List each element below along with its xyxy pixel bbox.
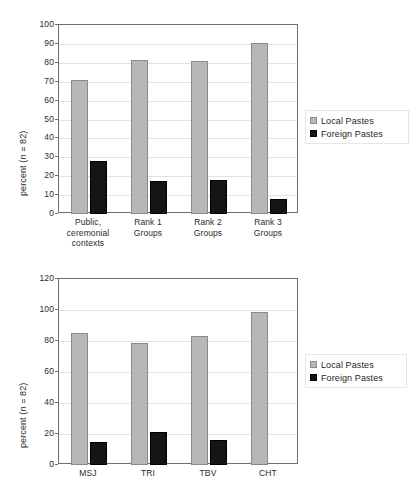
y-axis-tick-label: 80	[30, 57, 54, 67]
bar-foreign	[90, 161, 107, 214]
x-axis-label: Public,ceremonialcontexts	[58, 217, 118, 249]
bar-foreign	[90, 442, 107, 465]
legend-item: Local Pastes	[310, 114, 403, 127]
x-axis-label-line: Rank 2	[178, 217, 238, 228]
bar-local	[191, 61, 208, 214]
y-axis-tick-mark	[55, 213, 58, 214]
x-axis-label-line: ceremonial	[58, 228, 118, 239]
x-axis-label: CHT	[238, 468, 298, 479]
plot-area-contexts	[58, 24, 298, 213]
y-axis-tick-label: 10	[30, 189, 54, 199]
y-axis-tick-mark	[55, 309, 58, 310]
y-axis-tick-label: 20	[30, 428, 54, 438]
x-axis-label-line: Groups	[118, 228, 178, 239]
y-axis-tick-mark	[55, 340, 58, 341]
y-axis-title-text: percent (	[18, 412, 28, 448]
legend-swatch-local-icon	[310, 361, 317, 368]
legend-label: Foreign Pastes	[321, 129, 383, 139]
chart-contexts: percent (n = 82) Public,ceremonialcontex…	[0, 14, 418, 264]
x-axis-label-line: contexts	[58, 238, 118, 249]
x-axis-label-line: Public,	[58, 217, 118, 228]
x-axis-label-line: Rank 1	[118, 217, 178, 228]
chart-sites: percent (n = 82) MSJTRITBVCHT Local Past…	[0, 268, 418, 503]
y-axis-tick-label: 50	[30, 114, 54, 124]
y-axis-tick-mark	[55, 433, 58, 434]
y-axis-tick-label: 40	[30, 132, 54, 142]
y-axis-tick-label: 30	[30, 151, 54, 161]
y-axis-tick-mark	[55, 81, 58, 82]
y-axis-title-contexts: percent (n = 82)	[18, 131, 28, 196]
y-axis-tick-label: 120	[30, 273, 54, 283]
x-axis-label-line: Groups	[238, 228, 298, 239]
legend-label: Foreign Pastes	[321, 373, 383, 383]
y-axis-title-sites: percent (n = 82)	[18, 383, 28, 448]
bar-local	[191, 336, 208, 465]
y-axis-title-n: n	[18, 406, 28, 411]
y-axis-tick-mark	[55, 137, 58, 138]
y-axis-tick-label: 40	[30, 397, 54, 407]
legend-item: Foreign Pastes	[310, 127, 403, 140]
bar-foreign	[270, 199, 287, 214]
bar-local	[131, 60, 148, 214]
y-axis-title-text: percent (	[18, 160, 28, 196]
y-axis-tick-label: 90	[30, 38, 54, 48]
y-axis-tick-mark	[55, 278, 58, 279]
y-axis-tick-label: 80	[30, 335, 54, 345]
legend-swatch-foreign-icon	[310, 130, 317, 137]
bar-local	[251, 312, 268, 465]
y-axis-tick-label: 20	[30, 170, 54, 180]
x-axis-label: Rank 2Groups	[178, 217, 238, 238]
y-axis-tick-mark	[55, 62, 58, 63]
x-axis-label: TRI	[118, 468, 178, 479]
y-axis-tick-label: 100	[30, 304, 54, 314]
y-axis-tick-label: 100	[30, 19, 54, 29]
y-axis-tick-label: 0	[30, 208, 54, 218]
plot-area-sites	[58, 278, 298, 464]
x-axis-label-line: Rank 3	[238, 217, 298, 228]
y-axis-tick-mark	[55, 24, 58, 25]
y-axis-tick-label: 60	[30, 366, 54, 376]
y-axis-tick-mark	[55, 464, 58, 465]
legend-sites: Local PastesForeign Pastes	[305, 354, 407, 388]
bar-local	[131, 343, 148, 465]
x-axis-label-line: MSJ	[58, 468, 118, 479]
x-axis-label-line: Groups	[178, 228, 238, 239]
y-axis-tick-mark	[55, 194, 58, 195]
bar-local	[71, 80, 88, 214]
bar-foreign	[150, 181, 167, 214]
bar-foreign	[210, 180, 227, 214]
y-axis-tick-mark	[55, 402, 58, 403]
x-axis-label: Rank 3Groups	[238, 217, 298, 238]
bar-local	[251, 43, 268, 214]
figure-title	[0, 0, 418, 4]
x-axis-label-line: TBV	[178, 468, 238, 479]
y-axis-title-suffix: = 82)	[18, 131, 28, 155]
legend-item: Local Pastes	[310, 358, 401, 371]
y-axis-tick-label: 60	[30, 95, 54, 105]
x-axis-label-line: TRI	[118, 468, 178, 479]
x-axis-label-line: CHT	[238, 468, 298, 479]
bar-foreign	[150, 432, 167, 465]
legend-label: Local Pastes	[321, 360, 374, 370]
y-axis-title-suffix: = 82)	[18, 383, 28, 407]
bar-foreign	[210, 440, 227, 465]
y-axis-tick-mark	[55, 100, 58, 101]
x-axis-label: MSJ	[58, 468, 118, 479]
y-axis-title-n: n	[18, 154, 28, 159]
y-axis-tick-mark	[55, 175, 58, 176]
legend-swatch-local-icon	[310, 117, 317, 124]
y-axis-tick-label: 70	[30, 76, 54, 86]
y-axis-tick-mark	[55, 156, 58, 157]
legend-contexts: Local PastesForeign Pastes	[305, 110, 409, 144]
y-axis-tick-label: 0	[30, 459, 54, 469]
x-axis-label: Rank 1Groups	[118, 217, 178, 238]
y-axis-tick-mark	[55, 119, 58, 120]
y-axis-tick-mark	[55, 371, 58, 372]
bar-local	[71, 333, 88, 465]
x-axis-label: TBV	[178, 468, 238, 479]
legend-swatch-foreign-icon	[310, 374, 317, 381]
legend-label: Local Pastes	[321, 116, 374, 126]
legend-item: Foreign Pastes	[310, 371, 401, 384]
y-axis-tick-mark	[55, 43, 58, 44]
